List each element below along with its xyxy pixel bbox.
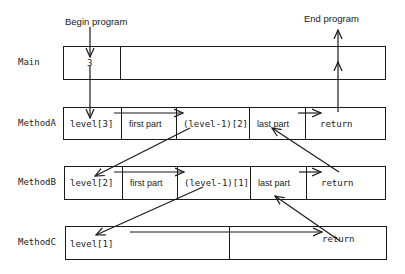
row-label-method-c: MethodC <box>18 237 56 247</box>
method-a-divider-2 <box>176 108 177 139</box>
method-a-last-part: last part <box>257 119 289 129</box>
begin-program-caption: Begin program <box>65 16 127 27</box>
method-b-first-part: first part <box>130 178 163 188</box>
method-b-frame-box: level[2] first part (level-1)[1] last pa… <box>64 166 386 200</box>
method-a-return: return <box>320 119 353 129</box>
method-a-frame-box: level[3] first part (level-1)[2] last pa… <box>63 107 386 140</box>
method-a-divider-1 <box>121 108 122 139</box>
method-a-divider-4 <box>305 108 306 139</box>
main-value: 3 <box>87 58 92 68</box>
method-b-divider-2 <box>177 167 178 199</box>
method-a-first-part: first part <box>129 119 162 129</box>
row-label-method-b: MethodB <box>18 177 56 187</box>
method-b-last-part: last part <box>258 178 290 188</box>
method-c-return: return <box>322 234 355 244</box>
method-c-divider <box>229 227 230 259</box>
method-c-frame-box: level[1] return <box>65 226 387 260</box>
main-divider <box>120 47 121 79</box>
method-a-level: level[3] <box>70 119 113 129</box>
main-frame-box: 3 <box>63 46 386 80</box>
row-label-main: Main <box>18 57 40 67</box>
method-c-level: level[1] <box>70 239 113 249</box>
method-b-divider-4 <box>306 167 307 199</box>
method-b-divider-3 <box>250 167 251 199</box>
method-b-divider-1 <box>122 167 123 199</box>
method-b-return: return <box>321 178 354 188</box>
method-a-divider-3 <box>249 108 250 139</box>
method-a-recursive-call: (level-1)[2] <box>183 119 248 129</box>
row-label-method-a: MethodA <box>18 118 56 128</box>
method-b-level: level[2] <box>70 178 113 188</box>
recursion-call-diagram: Begin program End program Main 3 MethodA… <box>0 0 405 274</box>
end-program-caption: End program <box>304 13 359 24</box>
method-b-recursive-call: (level-1)[1] <box>184 178 249 188</box>
